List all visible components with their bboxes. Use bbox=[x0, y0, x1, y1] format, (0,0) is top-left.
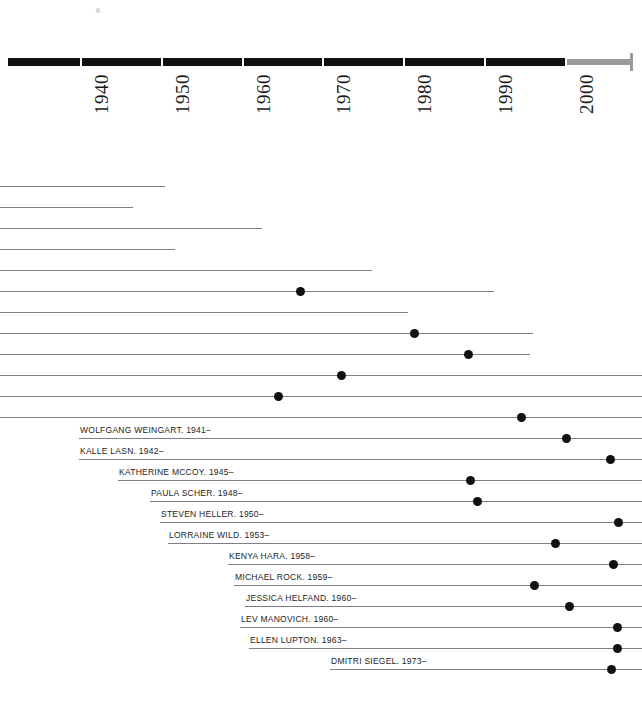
timeline-row-line bbox=[0, 291, 494, 292]
timeline-row-line bbox=[0, 228, 262, 229]
timeline-row-label: KATHERINE MCCOY. 1945– bbox=[119, 466, 234, 478]
timeline-row-marker-dot bbox=[607, 665, 616, 674]
timeline-row-line bbox=[0, 312, 408, 313]
timeline-row-line bbox=[0, 375, 642, 376]
timeline-row-label: STEVEN HELLER. 1950– bbox=[161, 508, 264, 520]
timeline-row-marker-dot bbox=[613, 644, 622, 653]
timeline-row-label: LEV MANOVICH. 1960– bbox=[241, 613, 338, 625]
timeline-row-line bbox=[150, 501, 642, 502]
timeline-row-line bbox=[79, 438, 642, 439]
timeline-row-labeled: KENYA HARA. 1958– bbox=[0, 550, 642, 571]
timeline-row bbox=[0, 298, 642, 319]
timeline-row-line bbox=[234, 585, 642, 586]
timeline-row-marker-dot bbox=[296, 287, 305, 296]
timeline-row-label: WOLFGANG WEINGART. 1941– bbox=[80, 424, 211, 436]
timeline-row-line bbox=[228, 564, 642, 565]
timeline-row-labeled: WOLFGANG WEINGART. 1941– bbox=[0, 424, 642, 445]
timeline-row-marker-dot bbox=[551, 539, 560, 548]
timeline-row-label: PAULA SCHER. 1948– bbox=[151, 487, 243, 499]
timeline-row bbox=[0, 340, 642, 361]
timeline-canvas: 1940195019601970198019902000 WOLFGANG WE… bbox=[0, 0, 642, 723]
timeline-row bbox=[0, 235, 642, 256]
timeline-row-label: MICHAEL ROCK. 1959– bbox=[235, 571, 333, 583]
timeline-row-line bbox=[0, 354, 530, 355]
timeline-row-marker-dot bbox=[473, 497, 482, 506]
timeline-row-label: LORRAINE WILD. 1953– bbox=[169, 529, 269, 541]
timeline-row-marker-dot bbox=[274, 392, 283, 401]
timeline-row-label: JESSICA HELFAND. 1960– bbox=[246, 592, 356, 604]
timeline-row-labeled: DMITRI SIEGEL. 1973– bbox=[0, 655, 642, 676]
timeline-row-labeled: KALLE LASN. 1942– bbox=[0, 445, 642, 466]
timeline-row bbox=[0, 256, 642, 277]
timeline-row-labeled: KATHERINE MCCOY. 1945– bbox=[0, 466, 642, 487]
timeline-row-labeled: LORRAINE WILD. 1953– bbox=[0, 529, 642, 550]
timeline-row bbox=[0, 214, 642, 235]
timeline-row-marker-dot bbox=[466, 476, 475, 485]
timeline-row-labeled: STEVEN HELLER. 1950– bbox=[0, 508, 642, 529]
timeline-row-marker-dot bbox=[609, 560, 618, 569]
timeline-row-marker-dot bbox=[614, 518, 623, 527]
timeline-row bbox=[0, 382, 642, 403]
timeline-row-label: DMITRI SIEGEL. 1973– bbox=[331, 655, 427, 667]
timeline-row-line bbox=[245, 606, 642, 607]
timeline-row-marker-dot bbox=[530, 581, 539, 590]
timeline-row-marker-dot bbox=[337, 371, 346, 380]
timeline-row-line bbox=[330, 669, 642, 670]
timeline-rows: WOLFGANG WEINGART. 1941–KALLE LASN. 1942… bbox=[0, 0, 642, 723]
timeline-row-line bbox=[79, 459, 642, 460]
timeline-row-label: ELLEN LUPTON. 1963– bbox=[250, 634, 347, 646]
timeline-row-marker-dot bbox=[606, 455, 615, 464]
timeline-row-labeled: ELLEN LUPTON. 1963– bbox=[0, 634, 642, 655]
timeline-row-line bbox=[0, 207, 133, 208]
timeline-row-marker-dot bbox=[464, 350, 473, 359]
timeline-row bbox=[0, 277, 642, 298]
timeline-row-line bbox=[240, 627, 642, 628]
timeline-row bbox=[0, 172, 642, 193]
timeline-row-labeled: PAULA SCHER. 1948– bbox=[0, 487, 642, 508]
timeline-row-marker-dot bbox=[517, 413, 526, 422]
timeline-row-line bbox=[249, 648, 642, 649]
timeline-row-marker-dot bbox=[565, 602, 574, 611]
timeline-row-line bbox=[118, 480, 642, 481]
timeline-row-marker-dot bbox=[562, 434, 571, 443]
timeline-row-labeled: MICHAEL ROCK. 1959– bbox=[0, 571, 642, 592]
timeline-row-line bbox=[0, 249, 175, 250]
timeline-row bbox=[0, 403, 642, 424]
timeline-row-line bbox=[0, 270, 372, 271]
timeline-row-labeled: LEV MANOVICH. 1960– bbox=[0, 613, 642, 634]
timeline-row bbox=[0, 193, 642, 214]
timeline-row-line bbox=[0, 186, 165, 187]
timeline-row-line bbox=[0, 396, 642, 397]
timeline-row-line bbox=[0, 417, 642, 418]
timeline-row-label: KENYA HARA. 1958– bbox=[229, 550, 315, 562]
timeline-row-line bbox=[160, 522, 642, 523]
timeline-row-label: KALLE LASN. 1942– bbox=[80, 445, 164, 457]
timeline-row bbox=[0, 319, 642, 340]
timeline-row-marker-dot bbox=[613, 623, 622, 632]
timeline-row-labeled: JESSICA HELFAND. 1960– bbox=[0, 592, 642, 613]
timeline-row-line bbox=[0, 333, 533, 334]
timeline-row-line bbox=[168, 543, 642, 544]
timeline-row-marker-dot bbox=[410, 329, 419, 338]
timeline-row bbox=[0, 361, 642, 382]
